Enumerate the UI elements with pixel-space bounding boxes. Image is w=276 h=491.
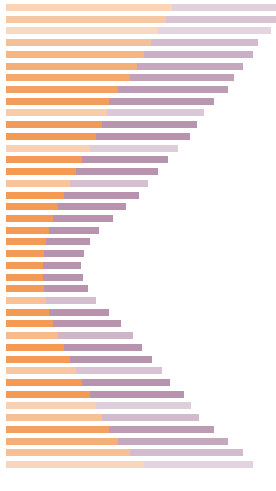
bar-segment-left xyxy=(6,215,53,222)
bar-segment-left xyxy=(6,180,70,187)
bar-row xyxy=(6,203,126,210)
bar-segment-right xyxy=(76,168,158,175)
bar-row xyxy=(6,227,99,234)
bar-row xyxy=(6,4,276,11)
bar-row xyxy=(6,262,81,269)
bar-row xyxy=(6,133,190,140)
bar-row xyxy=(6,145,178,152)
bar-segment-right xyxy=(53,215,113,222)
bar-row xyxy=(6,238,90,245)
bar-segment-right xyxy=(109,426,214,433)
bar-segment-right xyxy=(107,109,204,116)
bar-segment-right xyxy=(58,203,126,210)
bar-row xyxy=(6,180,148,187)
bar-segment-right xyxy=(64,344,142,351)
bar-segment-left xyxy=(6,109,107,116)
bar-segment-right xyxy=(130,74,234,81)
bar-row xyxy=(6,438,228,445)
bar-row xyxy=(6,156,168,163)
bar-row xyxy=(6,109,204,116)
bar-segment-left xyxy=(6,309,49,316)
bar-segment-left xyxy=(6,238,46,245)
bar-segment-right xyxy=(130,449,243,456)
bar-segment-right xyxy=(44,250,84,257)
bar-row xyxy=(6,461,253,468)
bar-segment-left xyxy=(6,332,58,339)
bar-segment-left xyxy=(6,156,82,163)
bar-segment-right xyxy=(90,145,178,152)
bar-segment-right xyxy=(172,4,276,11)
bar-segment-left xyxy=(6,356,70,363)
bar-row xyxy=(6,297,96,304)
bar-row xyxy=(6,309,109,316)
bar-segment-left xyxy=(6,145,90,152)
bar-segment-right xyxy=(46,297,96,304)
bar-segment-left xyxy=(6,320,53,327)
chart-root xyxy=(0,0,276,491)
bar-row xyxy=(6,98,214,105)
bar-segment-right xyxy=(43,274,83,281)
bar-segment-right xyxy=(144,461,253,468)
bar-segment-left xyxy=(6,438,118,445)
bar-row xyxy=(6,39,258,46)
bar-row xyxy=(6,16,276,23)
bar-row xyxy=(6,379,170,386)
bar-segment-right xyxy=(44,285,88,292)
bar-segment-right xyxy=(53,320,121,327)
bar-segment-left xyxy=(6,98,109,105)
bar-segment-left xyxy=(6,262,43,269)
bar-segment-left xyxy=(6,74,130,81)
bar-segment-left xyxy=(6,192,64,199)
bar-segment-left xyxy=(6,168,76,175)
bar-segment-right xyxy=(82,156,168,163)
bar-segment-left xyxy=(6,426,109,433)
bar-row xyxy=(6,426,214,433)
bar-row xyxy=(6,121,197,128)
bar-segment-left xyxy=(6,63,137,70)
bar-segment-right xyxy=(137,63,243,70)
bar-segment-left xyxy=(6,367,76,374)
bar-segment-right xyxy=(49,309,109,316)
bar-segment-right xyxy=(109,98,214,105)
bar-row xyxy=(6,86,228,93)
bar-row xyxy=(6,414,199,421)
bar-segment-right xyxy=(102,121,197,128)
bar-segment-right xyxy=(43,262,81,269)
bar-segment-right xyxy=(118,438,228,445)
bar-segment-left xyxy=(6,344,64,351)
bar-segment-left xyxy=(6,4,172,11)
bar-row xyxy=(6,285,88,292)
bar-segment-right xyxy=(96,402,191,409)
bar-row xyxy=(6,74,234,81)
bar-row xyxy=(6,192,139,199)
bar-segment-right xyxy=(102,414,199,421)
bar-segment-right xyxy=(166,16,276,23)
bar-segment-left xyxy=(6,27,158,34)
bar-segment-right xyxy=(49,227,99,234)
plot-area xyxy=(0,0,276,491)
bar-segment-left xyxy=(6,86,118,93)
bar-segment-right xyxy=(70,356,152,363)
bar-row xyxy=(6,250,84,257)
bar-row xyxy=(6,449,243,456)
bar-segment-left xyxy=(6,379,82,386)
bar-row xyxy=(6,274,83,281)
bar-row xyxy=(6,344,142,351)
bar-segment-right xyxy=(118,86,228,93)
bar-segment-left xyxy=(6,16,166,23)
bar-row xyxy=(6,391,184,398)
bar-segment-right xyxy=(64,192,139,199)
bar-segment-left xyxy=(6,274,43,281)
bar-segment-right xyxy=(70,180,148,187)
bar-segment-left xyxy=(6,297,46,304)
bar-row xyxy=(6,51,253,58)
bar-segment-left xyxy=(6,461,144,468)
bar-row xyxy=(6,367,162,374)
bar-segment-left xyxy=(6,449,130,456)
bar-row xyxy=(6,356,152,363)
bar-segment-right xyxy=(90,391,184,398)
bar-segment-right xyxy=(58,332,133,339)
bar-segment-right xyxy=(144,51,253,58)
bar-segment-left xyxy=(6,51,144,58)
bar-segment-left xyxy=(6,39,151,46)
